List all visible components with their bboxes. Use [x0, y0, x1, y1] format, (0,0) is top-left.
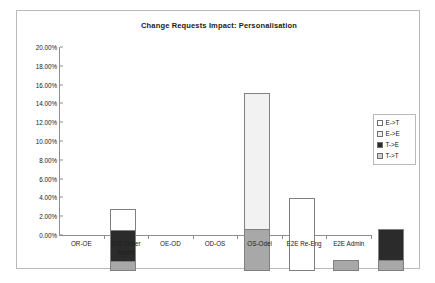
- bar-segment[interactable]: [378, 229, 404, 260]
- chart-legend: E->TE->ET->ET->T: [373, 114, 416, 165]
- y-axis-tick-label: 16.00%: [17, 81, 57, 88]
- y-axis-tick-label: 14.00%: [17, 100, 57, 107]
- bar-segment[interactable]: [378, 260, 404, 271]
- chart-frame: Change Requests Impact: Personalisation …: [16, 10, 420, 269]
- x-axis-tick-mark: [237, 236, 238, 239]
- x-axis-label-line: OR-OE: [59, 240, 104, 249]
- legend-item[interactable]: T->T: [377, 151, 413, 161]
- x-axis-label-line: OD-OS: [193, 240, 238, 249]
- bar-segment[interactable]: [244, 93, 270, 228]
- x-axis-label: OE-OD: [148, 240, 193, 249]
- x-axis-label: OD-OS: [193, 240, 238, 249]
- legend-item[interactable]: E->E: [377, 129, 413, 139]
- x-axis-labels: OR-OEE2E OrderMgmtOE-ODOD-OSOS-OdelE2E R…: [59, 240, 371, 268]
- legend-label: T->T: [386, 152, 399, 160]
- legend-label: E->T: [386, 119, 400, 127]
- bar-stack[interactable]: [378, 229, 404, 271]
- bar-segment[interactable]: [110, 209, 136, 230]
- legend-label: E->E: [386, 130, 400, 138]
- y-axis-tick-label: 18.00%: [17, 62, 57, 69]
- plot-area: [59, 47, 371, 235]
- y-axis-tick-label: 6.00%: [17, 175, 57, 182]
- x-axis-label: E2E Admin: [326, 240, 371, 249]
- x-axis-label: OR-OE: [59, 240, 104, 249]
- y-axis-tick-label: 10.00%: [17, 138, 57, 145]
- y-axis-tick-label: 12.00%: [17, 119, 57, 126]
- x-axis-label: OS-Odel: [237, 240, 282, 249]
- legend-item[interactable]: T->E: [377, 140, 413, 150]
- x-axis-label-line: OE-OD: [148, 240, 193, 249]
- y-axis-tick-label: 8.00%: [17, 156, 57, 163]
- x-axis-tick-mark: [371, 236, 372, 239]
- chart-title: Change Requests Impact: Personalisation: [17, 21, 421, 30]
- legend-item[interactable]: E->T: [377, 118, 413, 128]
- legend-swatch-icon: [377, 142, 383, 148]
- legend-swatch-icon: [377, 131, 383, 137]
- y-axis-tick-label: 4.00%: [17, 194, 57, 201]
- x-axis-label: E2E OrderMgmt: [104, 240, 149, 257]
- x-axis-tick-mark: [326, 236, 327, 239]
- x-axis-tick-mark: [282, 236, 283, 239]
- x-axis-tick-mark: [104, 236, 105, 239]
- bar-slot[interactable]: [368, 83, 413, 271]
- x-axis-label-line: E2E Admin: [326, 240, 371, 249]
- legend-swatch-icon: [377, 153, 383, 159]
- chart-screenshot: Change Requests Impact: Personalisation …: [0, 0, 435, 283]
- x-axis-label-line: Mgmt: [104, 249, 149, 258]
- x-axis-label: E2E Re-Eng: [282, 240, 327, 249]
- x-axis-label-line: E2E Re-Eng: [282, 240, 327, 249]
- legend-label: T->E: [386, 141, 399, 149]
- x-axis-label-line: E2E Order: [104, 240, 149, 249]
- x-axis-tick-mark: [193, 236, 194, 239]
- x-axis-tick-mark: [148, 236, 149, 239]
- y-axis-tick-label: 2.00%: [17, 213, 57, 220]
- legend-swatch-icon: [377, 120, 383, 126]
- y-axis-tick-label: 20.00%: [17, 44, 57, 51]
- x-axis-label-line: OS-Odel: [237, 240, 282, 249]
- y-axis-tick-label: 0.00%: [17, 232, 57, 239]
